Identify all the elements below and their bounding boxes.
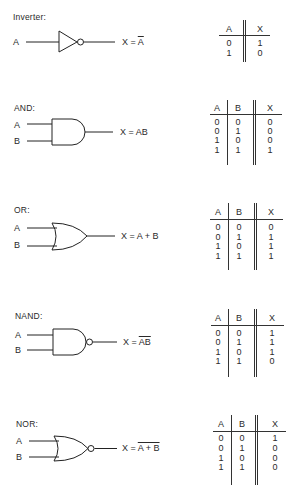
table-header-x: X (265, 207, 277, 217)
table-cell: 0 (269, 453, 281, 463)
table-header-a: A (212, 313, 224, 323)
table-output-divider (243, 20, 244, 62)
input-a-label: A (14, 120, 20, 130)
table-output-divider (245, 20, 246, 62)
table-cell: 0 (236, 453, 248, 463)
table-cell: 0 (269, 443, 281, 453)
table-cell: 1 (266, 328, 278, 338)
table-cell: 0 (212, 337, 224, 347)
expression-overlined: A + B (138, 443, 160, 453)
table-cell: 0 (223, 38, 235, 48)
table-cell: 1 (236, 443, 248, 453)
output-expression: X = AB (120, 127, 148, 137)
table-cell: 0 (233, 347, 245, 357)
table-cell: 0 (212, 232, 224, 242)
table-cell: 1 (215, 453, 227, 463)
table-cell: 1 (233, 337, 245, 347)
inverter-gate-symbol (0, 0, 294, 90)
table-cell: 0 (264, 126, 276, 136)
table-cell: 1 (211, 135, 223, 145)
table-cell: 1 (212, 241, 224, 251)
table-cell: 1 (264, 145, 276, 155)
table-cell: 1 (211, 145, 223, 155)
table-cell: 1 (265, 251, 277, 261)
table-cell: 0 (212, 328, 224, 338)
table-header-divider (210, 114, 282, 115)
table-header-a: A (212, 207, 224, 217)
table-header-b: B (236, 419, 248, 429)
table-cell: 1 (223, 48, 235, 58)
table-column-divider (227, 100, 228, 165)
table-cell: 0 (236, 433, 248, 443)
input-a-label: A (16, 436, 22, 446)
expression-plain: A + B (137, 231, 159, 241)
table-cell: 0 (233, 241, 245, 251)
gate-title: AND: (14, 103, 35, 113)
table-cell: 1 (232, 145, 244, 155)
table-header-a: A (215, 419, 227, 429)
input-b-label: B (15, 345, 21, 355)
table-cell: 1 (232, 126, 244, 136)
table-cell: 0 (264, 117, 276, 127)
table-header-divider (211, 325, 284, 326)
input-b-label: B (16, 452, 22, 462)
table-header-a: A (223, 24, 235, 34)
output-expression: X = AB (123, 337, 151, 347)
table-cell: 0 (233, 328, 245, 338)
input-a-label: A (15, 330, 21, 340)
table-output-divider (253, 100, 254, 165)
expression-prefix: X = (123, 337, 139, 347)
table-cell: 0 (269, 462, 281, 472)
table-cell: 0 (232, 135, 244, 145)
table-cell: 0 (215, 443, 227, 453)
table-cell: 1 (266, 337, 278, 347)
table-cell: 0 (264, 135, 276, 145)
output-expression: X = A (122, 37, 144, 47)
table-header-x: X (264, 103, 276, 113)
table-output-divider (255, 415, 256, 485)
table-cell: 1 (236, 462, 248, 472)
table-output-divider (257, 415, 258, 485)
table-cell: 1 (269, 433, 281, 443)
expression-overlined: A (138, 37, 144, 47)
gate-title: OR: (14, 205, 30, 215)
table-cell: 0 (212, 222, 224, 232)
gate-title: NOR: (16, 419, 38, 429)
expression-prefix: X = (120, 127, 136, 137)
table-header-b: B (233, 313, 245, 323)
table-header-x: X (254, 24, 266, 34)
table-cell: 0 (266, 356, 278, 366)
inverter-section: Inverter: A X = A A X 0 1 1 0 (0, 0, 294, 90)
table-header-b: B (233, 207, 245, 217)
table-column-divider (228, 203, 229, 270)
table-cell: 0 (232, 117, 244, 127)
table-cell: 1 (265, 241, 277, 251)
table-column-divider (231, 415, 232, 485)
table-cell: 0 (215, 433, 227, 443)
table-output-divider (254, 203, 255, 270)
table-cell: 1 (212, 251, 224, 261)
table-header-divider (210, 219, 283, 220)
output-expression: X = A + B (122, 443, 160, 453)
table-cell: 1 (266, 347, 278, 357)
input-a-label: A (14, 223, 20, 233)
table-output-divider (255, 100, 256, 165)
table-cell: 0 (233, 222, 245, 232)
table-header-x: X (269, 419, 281, 429)
table-cell: 1 (233, 356, 245, 366)
gate-title: NAND: (15, 311, 42, 321)
table-cell: 1 (233, 232, 245, 242)
table-column-divider (228, 309, 229, 377)
input-b-label: B (14, 240, 20, 250)
table-cell: 1 (265, 232, 277, 242)
table-cell: 1 (254, 38, 266, 48)
table-output-divider (254, 309, 255, 377)
table-cell: 1 (215, 462, 227, 472)
table-cell: 1 (212, 356, 224, 366)
table-cell: 0 (211, 117, 223, 127)
output-expression: X = A + B (121, 231, 159, 241)
table-output-divider (256, 309, 257, 377)
input-b-label: B (14, 136, 20, 146)
expression-plain: AB (136, 127, 148, 137)
table-cell: 0 (265, 222, 277, 232)
